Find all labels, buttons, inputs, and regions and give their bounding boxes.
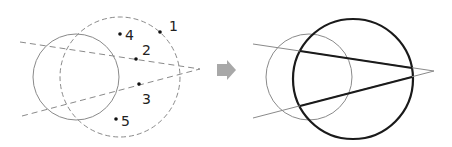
arrow-icon: [217, 60, 236, 80]
candidate-points: 12345: [114, 18, 178, 129]
dashed-ray-upper: [20, 42, 200, 69]
left-diagram: 12345: [20, 17, 200, 137]
point-label: 1: [169, 18, 178, 34]
point-5: 5: [114, 113, 130, 129]
point-label: 5: [121, 113, 130, 129]
original-circle: [266, 34, 352, 120]
bold-segment-upper: [300, 51, 412, 68]
result-circle: [293, 19, 413, 139]
point-label: 2: [142, 42, 151, 58]
point-dot: [118, 32, 122, 36]
solid-circle: [33, 34, 119, 120]
point-dot: [158, 30, 162, 34]
bold-segment-lower: [300, 77, 412, 106]
point-2: 2: [134, 42, 151, 61]
point-1: 1: [158, 18, 178, 34]
point-label: 3: [142, 91, 151, 107]
dashed-ray-lower: [22, 69, 200, 116]
point-label: 4: [125, 27, 134, 43]
diagram-canvas: 12345: [0, 0, 452, 147]
point-3: 3: [137, 82, 151, 107]
right-diagram: [253, 19, 434, 139]
point-dot: [137, 82, 141, 86]
point-4: 4: [118, 27, 134, 43]
point-dot: [114, 117, 118, 121]
point-dot: [134, 57, 138, 61]
